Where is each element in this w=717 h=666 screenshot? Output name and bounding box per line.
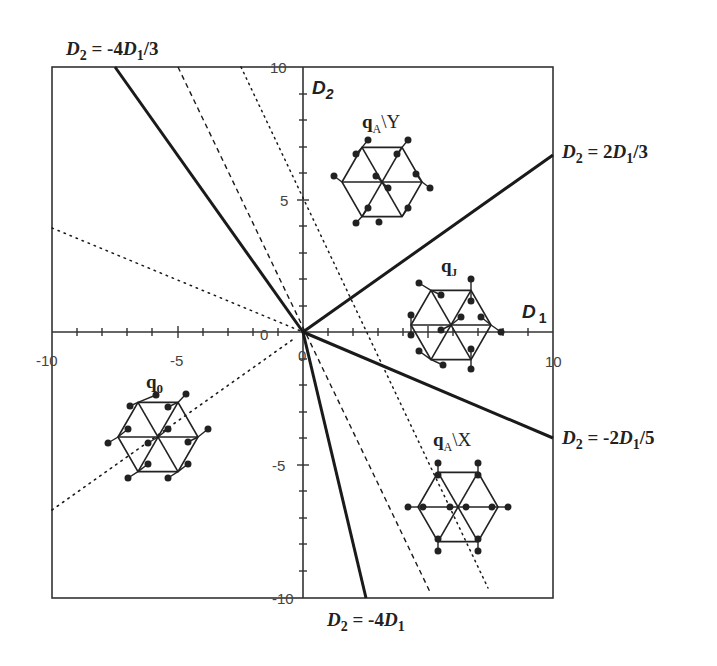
spin-config-qAX-icon bbox=[405, 460, 511, 554]
y-tick-label: -5 bbox=[272, 457, 285, 474]
equation-label-neg2-5: D2 = -2D1/5 bbox=[561, 427, 654, 452]
spin-config-qJ-icon bbox=[408, 276, 504, 372]
phase-diagram: -10 -5 0 10 10 5 0 -5 -10 D2 D1 D2 = -4D… bbox=[0, 0, 717, 666]
equation-label-neg4: D2 = -4D1 bbox=[326, 609, 405, 634]
phase-label-qJ: qJ bbox=[441, 255, 458, 278]
spin-config-q0-icon bbox=[105, 391, 211, 481]
boundary-dashed bbox=[178, 67, 430, 592]
boundary-neg2-5 bbox=[303, 332, 553, 438]
phase-label-qAX: qA\X bbox=[433, 429, 472, 454]
x-axis-label: D1 bbox=[522, 301, 547, 326]
boundary-neg4 bbox=[303, 332, 366, 598]
phase-label-qAY: qA\Y bbox=[362, 111, 401, 136]
equation-label-2-3: D2 = 2D1/3 bbox=[561, 141, 648, 166]
x-tick-label: 0 bbox=[260, 326, 268, 343]
y-tick-label: 10 bbox=[270, 59, 287, 76]
x-tick-label: -10 bbox=[36, 352, 58, 369]
equation-label-neg4-3: D2 = -4D1/3 bbox=[65, 38, 158, 63]
y-tick-label: -10 bbox=[272, 590, 294, 607]
x-tick-label: -5 bbox=[170, 352, 183, 369]
y-tick-label: 0 bbox=[298, 347, 306, 364]
spin-config-qAY-icon bbox=[331, 137, 433, 226]
x-tick-label: 10 bbox=[545, 353, 562, 370]
y-tick-label: 5 bbox=[280, 192, 288, 209]
y-axis-label: D2 bbox=[312, 77, 334, 102]
